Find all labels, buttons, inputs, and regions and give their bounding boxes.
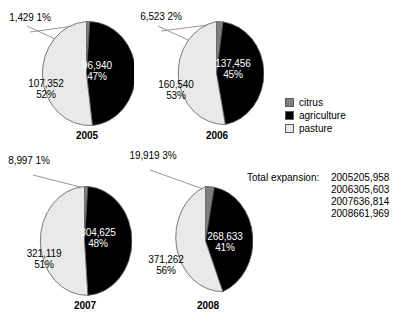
table-row: 2005 205,958 — [331, 172, 389, 184]
legend: citrus agriculture pasture — [285, 97, 346, 136]
callout-citrus-2006: 6,523 2% — [130, 11, 192, 22]
total-year-2006: 2006 — [331, 184, 353, 196]
slice-value-agriculture-2007: 304,625 48% — [65, 227, 131, 249]
legend-label-agriculture: agriculture — [299, 111, 346, 121]
table-row: 2006 305,603 — [331, 184, 389, 196]
legend-label-citrus: citrus — [299, 98, 323, 108]
slice-value-pasture-2006: 160,540 53% — [145, 79, 207, 101]
total-year-2005: 2005 — [331, 172, 353, 184]
legend-item-agriculture: agriculture — [285, 110, 346, 121]
callout-citrus-2005: 1,429 1% — [0, 12, 61, 23]
slice-value-agriculture-2008: 268,633 41% — [192, 231, 258, 253]
pie-chart-2007: 304,625 48% 321,119 51% — [37, 186, 132, 296]
callout-citrus-2007: 8,997 1% — [0, 155, 60, 166]
slice-value-pasture-2008: 371,262 56% — [135, 254, 197, 276]
pie-title-2006: 2006 — [186, 130, 248, 141]
legend-swatch-citrus — [285, 98, 294, 107]
pie-title-2007: 2007 — [54, 300, 116, 311]
callout-citrus-2008: 19,919 3% — [120, 150, 186, 161]
pie-chart-figure: 96,940 47% 107,352 52% 1,429 1% 2005 137… — [0, 0, 419, 330]
legend-swatch-agriculture — [285, 111, 294, 120]
total-value-2005: 205,958 — [353, 172, 389, 184]
legend-swatch-pasture — [285, 124, 294, 133]
legend-item-pasture: pasture — [285, 123, 346, 134]
total-expansion-title: Total expansion: — [247, 172, 319, 183]
total-expansion-table: 2005 205,958 2006 305,603 2007 636,814 2… — [331, 172, 389, 220]
total-value-2006: 305,603 — [353, 184, 389, 196]
table-row: 2007 636,814 — [331, 196, 389, 208]
total-year-2007: 2007 — [331, 196, 353, 208]
slice-value-agriculture-2006: 137,456 45% — [200, 58, 266, 80]
legend-label-pasture: pasture — [299, 124, 332, 134]
pie-chart-2008: 268,633 41% 371,262 56% — [158, 186, 253, 296]
totals-table-element: 2005 205,958 2006 305,603 2007 636,814 2… — [331, 172, 389, 220]
legend-item-citrus: citrus — [285, 97, 346, 108]
pie-chart-2005: 96,940 47% 107,352 52% — [39, 21, 134, 126]
pie-chart-2006: 137,456 45% 160,540 53% — [169, 21, 264, 126]
total-year-2008: 2008 — [331, 208, 353, 220]
slice-value-pasture-2005: 107,352 52% — [15, 78, 77, 100]
total-value-2008: 661,969 — [353, 208, 389, 220]
total-value-2007: 636,814 — [353, 196, 389, 208]
slice-value-pasture-2007: 321,119 51% — [13, 248, 75, 270]
pie-title-2005: 2005 — [56, 130, 118, 141]
table-row: 2008 661,969 — [331, 208, 389, 220]
pie-title-2008: 2008 — [177, 300, 239, 311]
